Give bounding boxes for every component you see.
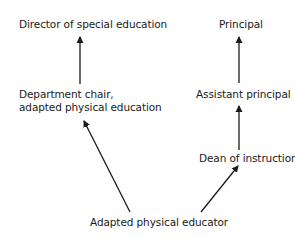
diagram-canvas: Director of special education Department… (0, 0, 295, 239)
node-principal: Principal (219, 18, 263, 31)
arrow-educator-to-dean (201, 166, 238, 212)
node-dept-chair-line1: Department chair, (19, 88, 114, 101)
node-educator: Adapted physical educator (90, 216, 228, 229)
arrow-educator-to-deptchair (84, 121, 130, 212)
node-dept-chair-line2: adapted physical education (19, 101, 162, 114)
node-director: Director of special education (19, 18, 167, 31)
arrows-layer (0, 0, 295, 239)
node-assistant-principal: Assistant principal (196, 88, 291, 101)
node-dean: Dean of instruction (199, 152, 295, 165)
